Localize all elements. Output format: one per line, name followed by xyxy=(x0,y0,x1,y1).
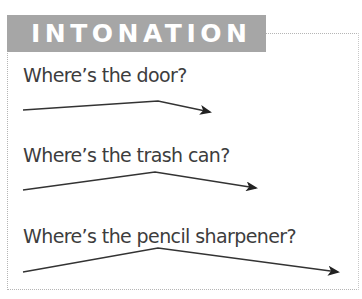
intonation-arrow-1-icon xyxy=(23,101,210,112)
intonation-arrows xyxy=(0,0,362,299)
intonation-arrow-2-icon xyxy=(23,172,256,190)
intonation-arrow-3-icon xyxy=(23,248,338,272)
